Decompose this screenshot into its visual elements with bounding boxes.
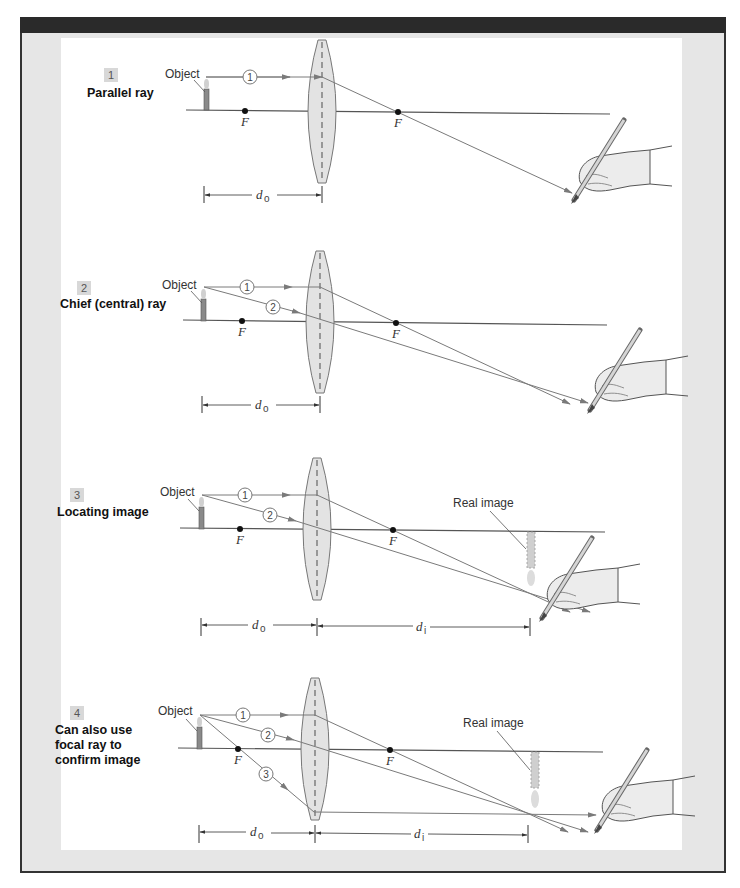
svg-text:2: 2	[265, 730, 271, 741]
svg-text:F: F	[237, 324, 247, 339]
object-label: Object	[165, 67, 200, 81]
svg-text:2: 2	[267, 510, 273, 521]
svg-text:2: 2	[270, 302, 276, 313]
svg-text:F: F	[391, 326, 401, 341]
svg-text:o: o	[260, 623, 266, 634]
svg-text:F: F	[388, 533, 398, 548]
svg-text:o: o	[258, 830, 264, 841]
svg-text:i: i	[422, 832, 424, 843]
panel-3-diagram: 1 2 Object F F Real image do di	[160, 458, 640, 636]
svg-text:d: d	[414, 826, 421, 841]
panel-2-diagram: 1 2 Object F F do	[162, 251, 688, 414]
svg-text:1: 1	[242, 490, 248, 501]
svg-text:o: o	[263, 403, 269, 414]
svg-text:Real image: Real image	[463, 716, 524, 730]
svg-text:Object: Object	[158, 704, 193, 718]
svg-text:F: F	[233, 752, 243, 767]
converging-lens	[308, 40, 336, 183]
svg-text:1: 1	[247, 72, 253, 83]
svg-text:Object: Object	[162, 278, 197, 292]
svg-text:Object: Object	[160, 485, 195, 499]
ray-diagram: 1 Object F F do 1 2 Object F F	[0, 0, 740, 888]
svg-text:d: d	[256, 187, 263, 202]
svg-text:d: d	[416, 619, 423, 634]
svg-text:o: o	[264, 193, 270, 204]
svg-text:F: F	[235, 532, 245, 547]
svg-text:F: F	[393, 115, 403, 130]
svg-text:1: 1	[244, 282, 250, 293]
panel-4-diagram: 1 2 3 Object F F Real image do di	[158, 678, 695, 843]
svg-text:d: d	[250, 824, 257, 839]
svg-text:F: F	[240, 114, 250, 129]
svg-text:d: d	[252, 617, 259, 632]
svg-text:F: F	[385, 753, 395, 768]
svg-text:d: d	[255, 397, 262, 412]
svg-text:i: i	[424, 625, 426, 636]
svg-text:1: 1	[240, 710, 246, 721]
panel-1-diagram: 1 Object F F do	[165, 40, 672, 204]
real-image	[527, 532, 535, 568]
svg-text:3: 3	[263, 769, 269, 780]
real-image-label: Real image	[453, 496, 514, 510]
